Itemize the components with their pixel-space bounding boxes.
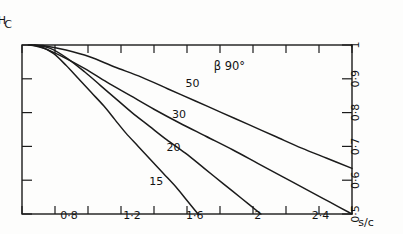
chart-canvas: 15203050 β 90° 0·81·21·622·4 0·50·60·70·… bbox=[0, 0, 403, 234]
rotated-figure-container: 15203050 β 90° 0·81·21·622·4 0·50·60·70·… bbox=[0, 0, 403, 234]
y-tick-label-0·6: 0·6 bbox=[349, 171, 362, 189]
plot-wrapper: 15203050 β 90° 0·81·21·622·4 0·50·60·70·… bbox=[0, 0, 403, 234]
curve-label-15: 15 bbox=[149, 175, 163, 188]
y-tick-label-0·9: 0·9 bbox=[349, 70, 362, 88]
curve-label-20: 20 bbox=[167, 141, 181, 154]
y-axis-ticks-right bbox=[22, 45, 32, 214]
x-tick-labels: 0·81·21·622·4 bbox=[60, 209, 329, 222]
beta-annotation: β 90° bbox=[214, 59, 245, 73]
figure-sheet: 15203050 β 90° 0·81·21·622·4 0·50·60·70·… bbox=[0, 0, 403, 234]
x-tick-label-2: 2 bbox=[254, 209, 261, 222]
x-tick-label-0·8: 0·8 bbox=[60, 209, 78, 222]
y-tick-labels: 0·50·60·70·80·91 bbox=[349, 42, 362, 223]
curve-50 bbox=[30, 45, 352, 168]
x-tick-label-1·2: 1·2 bbox=[123, 209, 141, 222]
y-axis-title-subscript: H bbox=[0, 14, 6, 27]
curve-label-50: 50 bbox=[186, 77, 200, 90]
curve-15 bbox=[28, 45, 198, 214]
x-tick-label-2·4: 2·4 bbox=[312, 209, 330, 222]
y-tick-label-0·8: 0·8 bbox=[349, 104, 362, 121]
data-curves bbox=[28, 45, 352, 214]
beta-annotation-text: β 90° bbox=[214, 59, 245, 73]
x-tick-label-1·6: 1·6 bbox=[186, 209, 204, 222]
y-tick-label-0·7: 0·7 bbox=[349, 138, 362, 156]
x-axis-title: s/c bbox=[358, 216, 374, 229]
curve-label-30: 30 bbox=[172, 108, 186, 121]
curve-30 bbox=[31, 45, 352, 214]
y-tick-label-1: 1 bbox=[349, 42, 362, 49]
